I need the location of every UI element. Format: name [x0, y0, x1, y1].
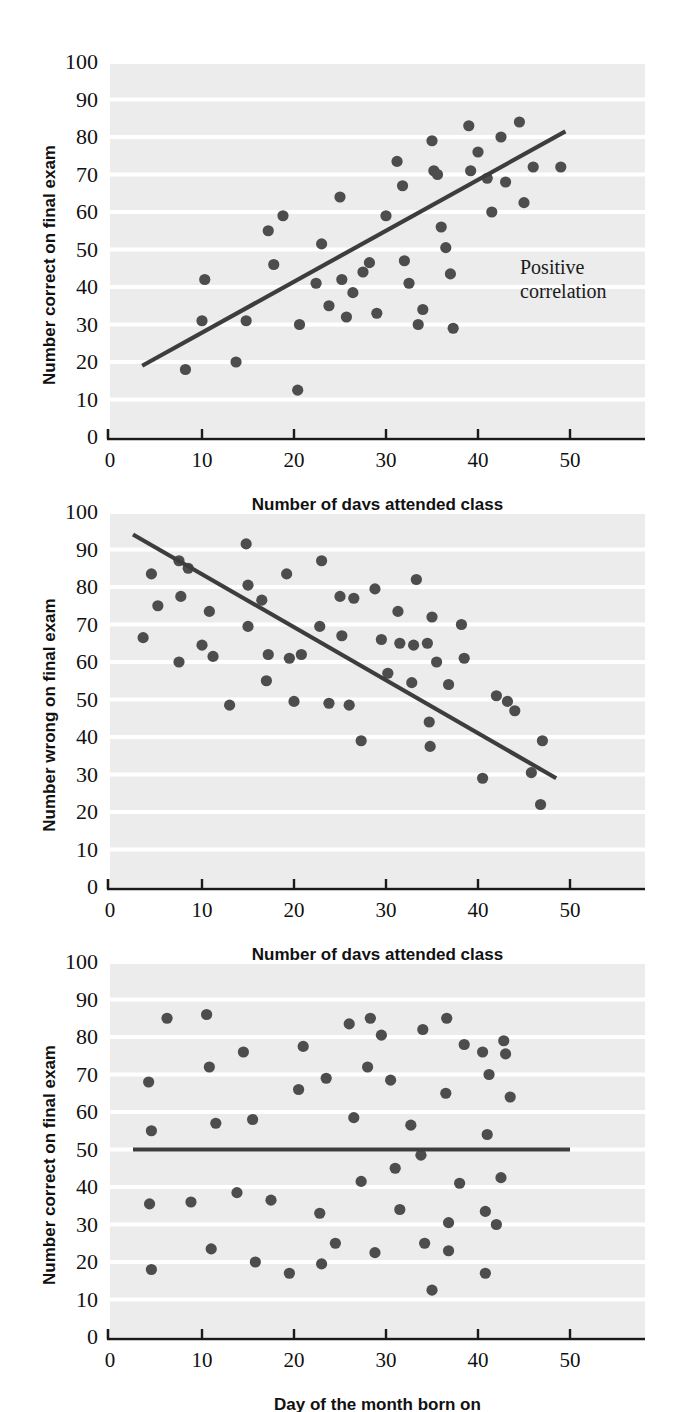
y-tick-label: 100: [65, 49, 98, 74]
data-point: [425, 741, 436, 752]
data-point: [502, 696, 513, 707]
data-point: [231, 1187, 242, 1198]
data-point: [288, 696, 299, 707]
data-point: [424, 716, 435, 727]
data-point: [310, 278, 321, 289]
data-point: [143, 1076, 154, 1087]
y-tick-label: 30: [76, 762, 98, 787]
y-tick-label: 40: [76, 274, 98, 299]
data-point: [206, 1243, 217, 1254]
data-point: [555, 161, 566, 172]
data-point: [417, 304, 428, 315]
data-point: [440, 1088, 451, 1099]
data-point: [399, 255, 410, 266]
data-point: [537, 735, 548, 746]
y-tick-label: 20: [76, 799, 98, 824]
chart-panel-positive: 010203040500102030405060708090100 Number…: [0, 40, 675, 490]
data-point: [314, 621, 325, 632]
data-point: [535, 799, 546, 810]
data-point: [454, 1178, 465, 1189]
data-point: [394, 1204, 405, 1215]
y-tick-label: 100: [65, 499, 98, 524]
data-point: [250, 1256, 261, 1267]
y-tick-label: 90: [76, 87, 98, 112]
data-point: [348, 1112, 359, 1123]
data-point: [426, 135, 437, 146]
data-point: [408, 640, 419, 651]
data-point: [505, 1091, 516, 1102]
x-tick-label: 50: [560, 1348, 581, 1372]
data-point: [448, 323, 459, 334]
data-point: [500, 176, 511, 187]
data-point: [514, 116, 525, 127]
data-point: [242, 621, 253, 632]
data-point: [371, 308, 382, 319]
x-tick-label: 20: [284, 448, 305, 472]
y-tick-label: 50: [76, 237, 98, 262]
data-point: [486, 206, 497, 217]
data-point: [265, 1195, 276, 1206]
y-tick-label: 70: [76, 1062, 98, 1087]
data-point: [426, 1285, 437, 1296]
data-point: [495, 1172, 506, 1183]
x-tick-label: 40: [468, 1348, 489, 1372]
data-point: [261, 675, 272, 686]
y-tick-label: 30: [76, 1212, 98, 1237]
data-point: [495, 131, 506, 142]
x-tick-label: 20: [284, 1348, 305, 1372]
data-point: [459, 1039, 470, 1050]
x-tick-label: 30: [376, 898, 397, 922]
data-point: [242, 580, 253, 591]
data-point: [294, 319, 305, 330]
data-point: [422, 638, 433, 649]
data-point: [292, 385, 303, 396]
y-tick-label: 30: [76, 312, 98, 337]
data-point: [369, 583, 380, 594]
data-point: [334, 591, 345, 602]
data-point: [405, 1120, 416, 1131]
data-point: [465, 165, 476, 176]
data-point: [356, 735, 367, 746]
y-tick-label: 70: [76, 612, 98, 637]
data-point: [526, 767, 537, 778]
y-tick-label: 60: [76, 649, 98, 674]
data-point: [403, 278, 414, 289]
data-point: [281, 568, 292, 579]
data-point: [362, 1061, 373, 1072]
data-point: [392, 606, 403, 617]
y-tick-label: 80: [76, 574, 98, 599]
data-point: [411, 574, 422, 585]
data-point: [204, 1061, 215, 1072]
data-point: [491, 690, 502, 701]
data-point: [277, 210, 288, 221]
data-point: [180, 364, 191, 375]
data-point: [321, 1073, 332, 1084]
data-point: [431, 656, 442, 667]
x-tick-label: 10: [192, 898, 213, 922]
y-tick-label: 90: [76, 987, 98, 1012]
data-point: [509, 705, 520, 716]
x-tick-label: 10: [192, 1348, 213, 1372]
data-point: [224, 700, 235, 711]
data-point: [185, 1196, 196, 1207]
x-tick-label: 30: [376, 1348, 397, 1372]
data-point: [152, 600, 163, 611]
data-point: [482, 1129, 493, 1140]
data-point: [528, 161, 539, 172]
data-point: [298, 1041, 309, 1052]
data-point: [336, 630, 347, 641]
data-point: [391, 156, 402, 167]
data-point: [436, 221, 447, 232]
data-point: [364, 257, 375, 268]
y-tick-label: 80: [76, 124, 98, 149]
data-point: [394, 638, 405, 649]
data-point: [238, 1046, 249, 1057]
data-point: [376, 1030, 387, 1041]
data-point: [385, 1075, 396, 1086]
x-tick-label: 40: [468, 448, 489, 472]
data-point: [323, 698, 334, 709]
data-point: [445, 268, 456, 279]
data-point: [443, 679, 454, 690]
y-tick-label: 50: [76, 1137, 98, 1162]
x-tick-label: 20: [284, 898, 305, 922]
